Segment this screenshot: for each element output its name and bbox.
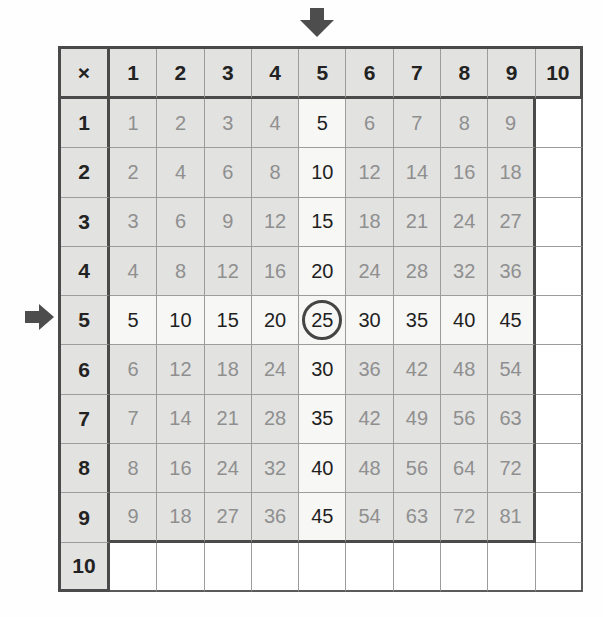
row-5-pointer-right-arrow-icon (25, 304, 54, 330)
row-header-9: 9 (61, 493, 110, 542)
product-cell-9x3: 27 (205, 493, 252, 542)
product-cell-8x4: 32 (252, 444, 299, 493)
product-cell-5x1: 5 (110, 296, 157, 345)
product-cell-1x3: 3 (205, 99, 252, 148)
product-cell-6x4: 24 (252, 345, 299, 394)
product-cell-5x4: 20 (252, 296, 299, 345)
product-cell-7x2: 14 (157, 395, 204, 444)
product-cell-8x6: 48 (346, 444, 393, 493)
product-cell-6x9: 54 (488, 345, 535, 394)
row-header-6: 6 (61, 345, 110, 394)
product-cell-8x3: 24 (205, 444, 252, 493)
column-header-5: 5 (299, 49, 346, 99)
empty-cell-r10-c8 (441, 543, 488, 592)
product-cell-4x8: 32 (441, 247, 488, 296)
empty-cell-r10-c2 (157, 543, 204, 592)
product-cell-3x3: 9 (205, 198, 252, 247)
product-cell-1x4: 4 (252, 99, 299, 148)
worksheet-page: ×123456789101123456789224681012141618336… (0, 0, 603, 617)
product-cell-3x9: 27 (488, 198, 535, 247)
product-cell-8x9: 72 (488, 444, 535, 493)
product-cell-7x3: 21 (205, 395, 252, 444)
product-cell-2x3: 6 (205, 148, 252, 197)
empty-cell-r5-c10 (536, 296, 583, 345)
column-header-10: 10 (536, 49, 583, 99)
empty-cell-r7-c10 (536, 395, 583, 444)
product-cell-8x1: 8 (110, 444, 157, 493)
product-cell-8x5: 40 (299, 444, 346, 493)
product-cell-4x6: 24 (346, 247, 393, 296)
product-cell-5x3: 15 (205, 296, 252, 345)
empty-cell-r10-c1 (110, 543, 157, 592)
product-cell-7x1: 7 (110, 395, 157, 444)
product-cell-7x5: 35 (299, 395, 346, 444)
empty-cell-r4-c10 (536, 247, 583, 296)
product-cell-5x7: 35 (394, 296, 441, 345)
product-cell-8x7: 56 (394, 444, 441, 493)
product-cell-6x5: 30 (299, 345, 346, 394)
product-cell-3x8: 24 (441, 198, 488, 247)
product-cell-1x6: 6 (346, 99, 393, 148)
empty-cell-r10-c7 (394, 543, 441, 592)
column-header-8: 8 (441, 49, 488, 99)
product-cell-4x2: 8 (157, 247, 204, 296)
product-cell-5x9: 45 (488, 296, 535, 345)
product-cell-7x6: 42 (346, 395, 393, 444)
product-cell-9x1: 9 (110, 493, 157, 542)
operator-cell: × (61, 49, 110, 99)
row-header-5: 5 (61, 296, 110, 345)
circled-answer-cell: 25 (299, 296, 346, 345)
product-cell-5x6: 30 (346, 296, 393, 345)
circled-answer-value: 25 (311, 309, 333, 332)
product-cell-4x3: 12 (205, 247, 252, 296)
row-header-2: 2 (61, 148, 110, 197)
column-header-6: 6 (346, 49, 393, 99)
product-cell-1x1: 1 (110, 99, 157, 148)
product-cell-6x7: 42 (394, 345, 441, 394)
product-cell-1x8: 8 (441, 99, 488, 148)
column-5-pointer-down-arrow-icon (300, 8, 334, 37)
product-cell-6x6: 36 (346, 345, 393, 394)
empty-cell-r2-c10 (536, 148, 583, 197)
product-cell-2x8: 16 (441, 148, 488, 197)
column-header-1: 1 (110, 49, 157, 99)
product-cell-1x9: 9 (488, 99, 535, 148)
column-header-4: 4 (252, 49, 299, 99)
row-header-4: 4 (61, 247, 110, 296)
product-cell-3x5: 15 (299, 198, 346, 247)
product-cell-2x9: 18 (488, 148, 535, 197)
product-cell-3x1: 3 (110, 198, 157, 247)
product-cell-6x2: 12 (157, 345, 204, 394)
column-header-2: 2 (157, 49, 204, 99)
product-cell-4x1: 4 (110, 247, 157, 296)
product-cell-2x5: 10 (299, 148, 346, 197)
empty-cell-r1-c10 (536, 99, 583, 148)
product-cell-4x9: 36 (488, 247, 535, 296)
empty-cell-r10-c9 (488, 543, 535, 592)
row-header-3: 3 (61, 198, 110, 247)
product-cell-6x1: 6 (110, 345, 157, 394)
product-cell-3x6: 18 (346, 198, 393, 247)
empty-cell-r10-c5 (299, 543, 346, 592)
product-cell-9x4: 36 (252, 493, 299, 542)
row-header-8: 8 (61, 444, 110, 493)
empty-cell-r8-c10 (536, 444, 583, 493)
product-cell-9x6: 54 (346, 493, 393, 542)
product-cell-1x2: 2 (157, 99, 204, 148)
empty-cell-r3-c10 (536, 198, 583, 247)
empty-cell-r10-c3 (205, 543, 252, 592)
product-cell-3x7: 21 (394, 198, 441, 247)
product-cell-9x7: 63 (394, 493, 441, 542)
empty-cell-r10-c6 (346, 543, 393, 592)
product-cell-4x5: 20 (299, 247, 346, 296)
row-header-10: 10 (61, 543, 110, 592)
product-cell-5x2: 10 (157, 296, 204, 345)
multiplication-table: ×123456789101123456789224681012141618336… (58, 46, 583, 592)
product-cell-6x8: 48 (441, 345, 488, 394)
column-header-3: 3 (205, 49, 252, 99)
product-cell-1x7: 7 (394, 99, 441, 148)
product-cell-5x8: 40 (441, 296, 488, 345)
product-cell-9x8: 72 (441, 493, 488, 542)
product-cell-6x3: 18 (205, 345, 252, 394)
product-cell-2x6: 12 (346, 148, 393, 197)
